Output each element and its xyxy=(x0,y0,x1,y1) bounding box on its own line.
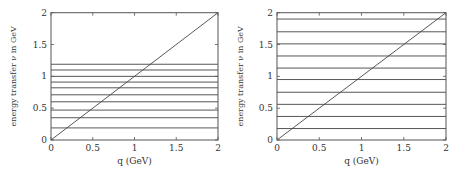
y-tick-label: 0 xyxy=(267,135,273,145)
y-tick-label: 0 xyxy=(41,135,47,145)
x-tick-label: 0 xyxy=(274,143,280,153)
x-tick-label: 2 xyxy=(443,143,449,153)
x-tick-label: 1 xyxy=(132,143,138,153)
y-tick-label: 2 xyxy=(41,8,47,18)
x-tick-label: 2 xyxy=(215,143,221,153)
x-tick-label: 0.5 xyxy=(312,143,327,153)
chart-right-svg: 00.511.5200.511.52q (GeV)energy transfer… xyxy=(227,0,459,173)
x-tick-label: 0 xyxy=(48,143,54,153)
x-axis-label: q (GeV) xyxy=(344,156,379,166)
y-tick-label: 0.5 xyxy=(259,103,274,113)
chart-left: 00.511.5200.511.52q (GeV)energy transfer… xyxy=(0,0,230,173)
y-tick-label: 1 xyxy=(41,71,47,81)
y-tick-label: 1.5 xyxy=(33,40,48,50)
y-tick-label: 1.5 xyxy=(259,40,274,50)
y-tick-label: 1 xyxy=(267,71,273,81)
x-axis-label: q (GeV) xyxy=(117,156,152,166)
x-tick-label: 1 xyxy=(359,143,365,153)
y-axis-label: energy transfer ν in GeV xyxy=(236,26,245,127)
x-tick-label: 0.5 xyxy=(86,143,101,153)
y-axis-label: energy transfer ν in GeV xyxy=(9,26,18,127)
y-tick-label: 0.5 xyxy=(33,103,48,113)
chart-right: 00.511.5200.511.52q (GeV)energy transfer… xyxy=(227,0,459,173)
chart-left-svg: 00.511.5200.511.52q (GeV)energy transfer… xyxy=(0,0,230,173)
x-tick-label: 1.5 xyxy=(169,143,184,153)
y-tick-label: 2 xyxy=(267,8,273,18)
x-tick-label: 1.5 xyxy=(397,143,412,153)
